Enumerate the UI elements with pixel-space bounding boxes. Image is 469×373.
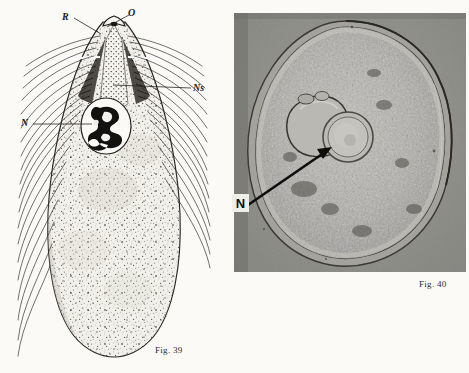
label-nucleus-drawing: N [21,118,28,128]
label-nuclear-strand: Ns [193,83,204,93]
leader-R [74,18,101,34]
label-rostrum: R [62,12,69,22]
label-oral-opening: O [128,8,135,18]
cell-photomicrograph [234,13,466,272]
figure-40-panel [234,13,466,272]
figure-39-panel: R O Ns N [0,0,232,373]
label-nucleus-photo: N [232,194,249,212]
nucleus-photo [323,112,373,162]
ciliate-line-drawing [0,0,232,373]
nucleus-drawing [81,98,131,154]
figure-39-caption: Fig. 39 [155,345,183,355]
label-nucleus-photo-text: N [236,197,245,210]
figure-40-caption: Fig. 40 [419,279,447,289]
oral-opening [111,22,118,26]
rostrum-apex [103,16,125,26]
figure-plate: R O Ns N Fig. 39 [0,0,469,373]
